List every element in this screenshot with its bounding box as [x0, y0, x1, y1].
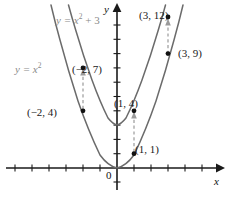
point-label-3-9: (3, 9) [178, 48, 202, 59]
curve-label-shifted-base: y = x [56, 14, 79, 26]
curve-label-shifted-tail: + 3 [82, 14, 99, 26]
data-point-m2-4 [81, 108, 86, 113]
shift-arrow-x-3 [165, 19, 171, 55]
y-axis-label: y [104, 4, 109, 15]
curve-label-base-base: y = x [15, 63, 38, 75]
curve-label-shifted: y = x2 + 3 [56, 15, 100, 26]
origin-label: 0 [106, 170, 112, 181]
point-label-m2-4: (−2, 4) [27, 107, 57, 118]
data-point-3-9 [166, 51, 171, 56]
x-axis-arrowhead [216, 164, 225, 173]
curve-label-base-exponent: 2 [38, 61, 42, 70]
point-label-1-1: (1, 1) [135, 144, 159, 155]
point-label-3-12: (3, 12) [139, 10, 168, 21]
parabola-figure: y = x2 + 3 y = x2 (−2, 7) (−2, 4) (1, 4)… [0, 0, 229, 198]
data-point-1-4 [132, 108, 137, 113]
x-axis-label: x [214, 176, 219, 187]
point-label-1-4: (1, 4) [114, 98, 138, 109]
y-axis-arrowhead [113, 3, 122, 12]
point-label-m2-7: (−2, 7) [72, 64, 102, 75]
curve-label-base: y = x2 [15, 64, 41, 75]
